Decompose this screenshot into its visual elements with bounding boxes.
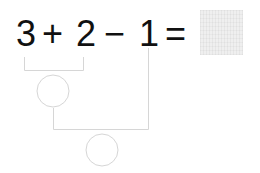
second-step-circle[interactable] [86, 134, 118, 166]
bracket-3-plus-2 [25, 57, 84, 71]
step-diagram [0, 0, 260, 173]
first-step-circle[interactable] [37, 75, 69, 107]
connector-line [54, 108, 149, 130]
